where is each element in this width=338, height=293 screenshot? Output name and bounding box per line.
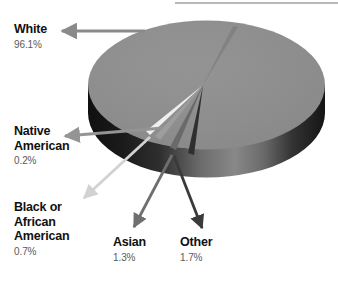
callout-label-native-american-name-line1: Native (14, 124, 69, 139)
callout-label-native-american: Native American 0.2% (14, 124, 69, 167)
callout-label-other-name: Other (180, 235, 212, 250)
callout-label-white-percent: 96.1% (14, 38, 47, 51)
callout-label-black-african-american-percent: 0.7% (14, 245, 69, 258)
callout-label-black-african-american: Black or African American 0.7% (14, 200, 69, 258)
callout-label-native-american-percent: 0.2% (14, 154, 69, 167)
callout-label-black-african-american-name-line1: Black or (14, 200, 69, 215)
header-divider-rule (175, 2, 338, 4)
callout-label-white-name: White (14, 22, 47, 37)
callout-label-asian: Asian 1.3% (113, 235, 146, 264)
callout-label-asian-name: Asian (113, 235, 146, 250)
pie-chart-figure: White 96.1% Native American 0.2% Black o… (0, 0, 338, 293)
callout-label-black-african-american-name-line3: American (14, 229, 69, 244)
callout-label-native-american-name-line2: American (14, 139, 69, 154)
callout-label-black-african-american-name-line2: African (14, 215, 69, 230)
callout-label-other-percent: 1.7% (180, 251, 212, 264)
callout-label-white: White 96.1% (14, 22, 47, 51)
callout-label-asian-percent: 1.3% (113, 251, 146, 264)
callout-label-other: Other 1.7% (180, 235, 212, 264)
